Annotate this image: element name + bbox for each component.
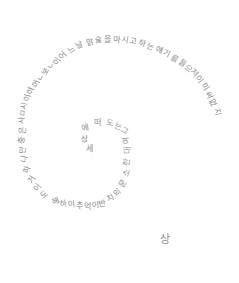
handwritten-glyph: 나 xyxy=(20,155,29,164)
handwritten-glyph: 상 xyxy=(81,136,89,145)
handwritten-glyph: 이 xyxy=(68,201,76,210)
handwritten-glyph: 반 xyxy=(98,199,106,208)
handwritten-glyph: 치 xyxy=(106,194,116,204)
handwritten-glyph: 도 xyxy=(39,190,50,201)
handwritten-glyph: 문 xyxy=(118,179,128,189)
handwritten-glyph: 지 xyxy=(212,108,221,117)
handwritten-glyph: 고 xyxy=(128,37,136,46)
handwritten-glyph: 시 xyxy=(120,37,128,46)
handwritten-glyph: 하 xyxy=(59,199,67,208)
handwritten-glyph: 사 xyxy=(18,116,26,123)
handwritten-glyph: 여 xyxy=(122,137,131,145)
handwritten-glyph: 마 xyxy=(113,36,121,45)
handwritten-glyph: 한 xyxy=(123,158,132,166)
handwritten-glyph: 충 xyxy=(18,136,26,143)
handwritten-glyph: 상 xyxy=(160,234,170,245)
handwritten-glyph: 은 xyxy=(19,127,27,134)
handwritten-glyph: 하 xyxy=(23,165,33,174)
handwritten-glyph: 도 xyxy=(105,120,113,129)
handwritten-glyph: 을 xyxy=(104,36,111,44)
handwritten-glyph: 떠 xyxy=(94,119,101,127)
handwritten-glyph: 의 xyxy=(112,188,123,199)
handwritten-glyph: 없 xyxy=(208,98,218,107)
handwritten-glyph: 는 xyxy=(145,42,154,52)
handwritten-glyph: 에 xyxy=(81,123,89,132)
spiral-text-artwork: 이어느날맑술을마시고하는얘기를들으저이미써없지ㄴ보ㄴ어야이시ㅁ사은충만나하거이도… xyxy=(0,0,239,283)
handwritten-glyph: 술 xyxy=(94,37,102,46)
handwritten-glyph: 대 xyxy=(124,147,132,154)
handwritten-glyph: 맑 xyxy=(85,38,94,48)
handwritten-glyph: 만 xyxy=(19,146,28,154)
handwritten-glyph: 세 xyxy=(86,145,93,153)
handwritten-glyph: 소 xyxy=(122,169,132,178)
handwritten-glyph: 이 xyxy=(23,94,32,103)
handwritten-glyph: 추 xyxy=(76,202,83,210)
handwritten-glyph: 억 xyxy=(84,203,91,211)
